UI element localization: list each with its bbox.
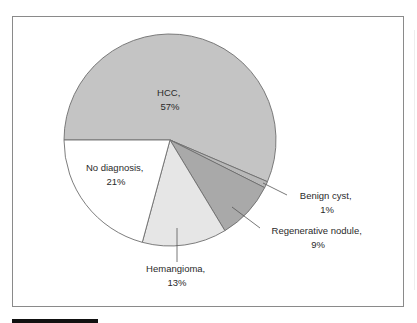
- label-regenerative-nodule-value: 9%: [311, 239, 325, 250]
- label-hcc-value: 57%: [160, 101, 180, 112]
- label-no-diagnosis-name: No diagnosis,: [86, 162, 144, 173]
- label-regenerative-nodule-name: Regenerative nodule,: [272, 225, 362, 236]
- pie-chart: HCC, 57% No diagnosis, 21% Benign cyst, …: [0, 0, 417, 323]
- label-benign-cyst: Benign cyst, 1%: [300, 190, 354, 215]
- leader-line-benign-cyst: [263, 183, 287, 195]
- label-benign-cyst-name: Benign cyst,: [300, 190, 352, 201]
- label-hemangioma-name: Hemangioma,: [146, 263, 205, 274]
- label-hcc-name: HCC,: [157, 87, 180, 98]
- label-hemangioma-value: 13%: [167, 277, 187, 288]
- label-hemangioma: Hemangioma, 13%: [146, 263, 208, 288]
- pie-slices: [64, 34, 276, 246]
- caption-rule: [12, 319, 98, 323]
- label-no-diagnosis-value: 21%: [106, 176, 126, 187]
- label-benign-cyst-value: 1%: [320, 204, 334, 215]
- label-regenerative-nodule: Regenerative nodule, 9%: [272, 225, 365, 250]
